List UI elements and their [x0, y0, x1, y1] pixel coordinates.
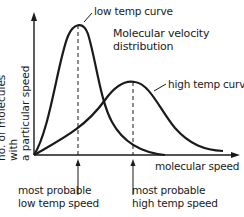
low-curve-leader-line [84, 13, 92, 22]
high-temp-curve [34, 82, 223, 155]
low-speed-annotation-line2: low temp speed [18, 197, 99, 210]
chart-title-line1: Molecular velocity [113, 27, 209, 40]
chart-title-line2: distribution [113, 40, 173, 53]
x-axis-label: molecular speed [155, 160, 239, 173]
y-axis-label-line2: a particular speed [19, 51, 31, 161]
low-speed-arrowhead-icon [76, 159, 81, 166]
low-speed-annotation-line1: most probable [18, 184, 91, 197]
y-axis-label: no. of molecules with a particular speed [0, 51, 31, 161]
high-speed-annotation-line1: most probable [132, 184, 205, 197]
high-speed-annotation-line2: high temp speed [132, 197, 218, 210]
y-axis-arrow-icon [31, 12, 37, 21]
low-temp-curve-label: low temp curve [94, 5, 173, 18]
y-axis-label-line1: no. of molecules with [0, 51, 19, 161]
x-axis-arrow-icon [231, 152, 240, 158]
high-temp-curve-label: high temp curve [168, 78, 244, 91]
high-curve-leader-line [154, 84, 166, 91]
high-speed-arrowhead-icon [131, 159, 136, 166]
